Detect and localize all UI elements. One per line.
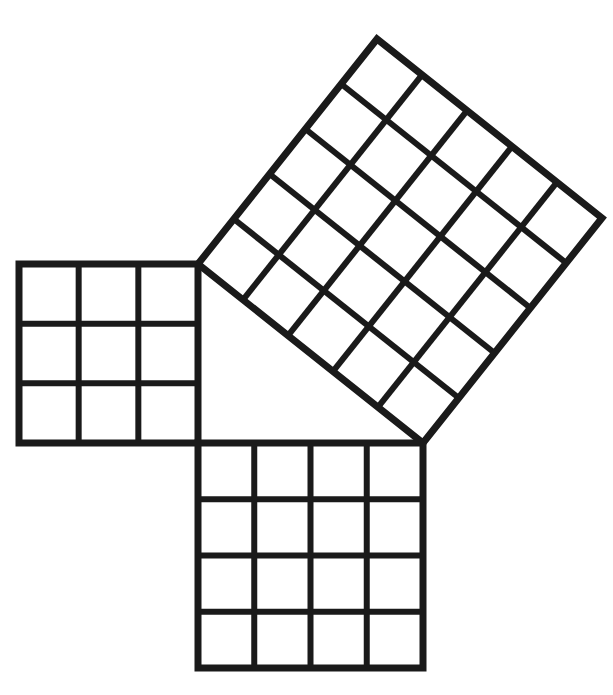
pythagoras-diagram-svg: [0, 0, 613, 695]
left-square-group: [19, 264, 198, 443]
pythagoras-figure: [0, 0, 613, 695]
left-square-face: [19, 264, 198, 443]
bottom-square-group: [198, 443, 423, 668]
